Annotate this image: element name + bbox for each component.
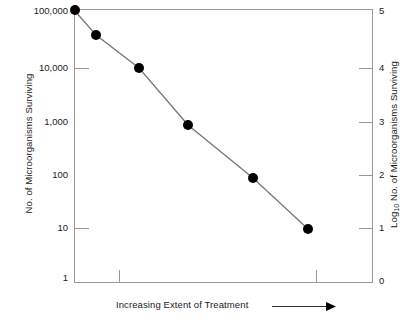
survival-curve-line — [74, 10, 308, 229]
data-point — [303, 224, 313, 234]
y-axis-left-ticks — [75, 69, 89, 229]
plot-area — [0, 0, 419, 323]
data-point — [134, 63, 144, 73]
data-point — [70, 5, 80, 15]
x-axis-ticks — [120, 270, 317, 283]
increasing-treatment-arrow-icon — [272, 302, 336, 311]
data-point — [248, 173, 258, 183]
data-point — [183, 120, 193, 130]
data-point — [91, 30, 101, 40]
axis-frame — [75, 10, 373, 283]
survivor-curve-chart: No. of Microorganisms Surviving Log10 No… — [0, 0, 419, 323]
y-axis-right-ticks — [359, 69, 373, 229]
